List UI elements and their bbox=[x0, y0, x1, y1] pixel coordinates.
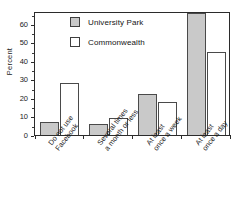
y-tick-label: 10 bbox=[20, 114, 28, 122]
legend: University ParkCommonwealth bbox=[70, 14, 180, 54]
legend-item: University Park bbox=[70, 14, 180, 30]
legend-swatch-icon bbox=[70, 37, 80, 47]
y-tick-label: 30 bbox=[20, 77, 28, 85]
legend-swatch-icon bbox=[70, 17, 80, 27]
y-tick-label: 50 bbox=[20, 40, 28, 48]
legend-item: Commonwealth bbox=[70, 34, 180, 50]
y-tick-label: 60 bbox=[20, 21, 28, 29]
legend-label: Commonwealth bbox=[88, 38, 145, 47]
bar-chart: Percent 0102030405060 Do not useFacebook… bbox=[0, 0, 241, 202]
x-axis-category-labels: Do not useFacebookSeveral timesa month o… bbox=[0, 136, 241, 202]
bar bbox=[187, 13, 206, 135]
y-tick-label: 40 bbox=[20, 58, 28, 66]
y-tick-label: 20 bbox=[20, 95, 28, 103]
legend-label: University Park bbox=[88, 18, 143, 27]
